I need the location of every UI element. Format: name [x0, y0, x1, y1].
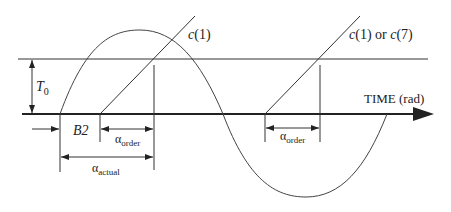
- label-c1: c(1): [188, 27, 211, 43]
- firing-angle-diagram: c(1) c(1) or c(7) T0 B2 αorder αactual α…: [0, 0, 451, 212]
- label-alpha-order-2: αorder: [280, 129, 305, 145]
- label-t0: T0: [36, 79, 49, 97]
- time-axis-arrowhead: [413, 107, 434, 121]
- label-time-axis: TIME (rad): [364, 91, 424, 106]
- label-b2: B2: [73, 123, 89, 138]
- label-c1-or-c7: c(1) or c(7): [349, 27, 413, 43]
- label-alpha-actual: αactual: [92, 161, 120, 177]
- label-alpha-order-1: αorder: [115, 132, 140, 148]
- ramp-line-c7: [265, 16, 360, 114]
